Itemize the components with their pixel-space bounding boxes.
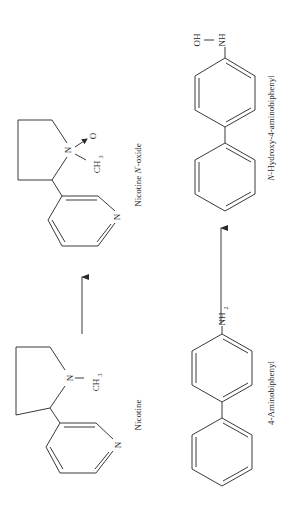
svg-text:Nicotine N′-oxide: Nicotine N′-oxide (133, 143, 143, 207)
svg-text:N-Hydroxy-4-aminobiphenyl: N-Hydroxy-4-aminobiphenyl (266, 75, 276, 182)
svg-text:CH: CH (92, 160, 102, 173)
methyl-group-label: CH 3 (92, 156, 104, 174)
svg-text:CH: CH (91, 378, 101, 391)
svg-text:2: 2 (223, 307, 229, 310)
nicotine-n-oxide-name: Nicotine N′-oxide (133, 143, 143, 207)
4-aminobiphenyl-name: 4-Aminobiphenyl (266, 361, 276, 425)
amine-label: NH (217, 33, 227, 46)
nicotine-n-oxide-structure: N O CH 3 N (18, 120, 122, 246)
svg-text:3: 3 (98, 156, 104, 159)
nicotine-name: Nicotine (133, 400, 143, 431)
amine-nitrogen-label: N (65, 374, 75, 381)
4-aminobiphenyl-structure: NH 2 (192, 307, 252, 487)
pyridine-nitrogen-label: N (113, 441, 123, 448)
amine-nitrogen-label: N (63, 146, 73, 153)
svg-text:3: 3 (97, 374, 103, 377)
pyridine-nitrogen-label: N (112, 213, 122, 220)
reaction-scheme: N O CH 3 N Nicotine N′-oxide N CH 3 N Ni… (0, 0, 286, 526)
hydroxyl-label: OH (192, 33, 202, 46)
n-hydroxy-4-aminobiphenyl-structure: OH NH (192, 33, 255, 211)
svg-text:NH: NH (217, 312, 227, 325)
methyl-group-label: CH 3 (91, 374, 103, 392)
nicotine-structure: N CH 3 N (16, 347, 123, 473)
oxide-oxygen-label: O (88, 132, 98, 139)
amine-label: NH 2 (217, 307, 229, 326)
n-hydroxy-4-aminobiphenyl-name: N-Hydroxy-4-aminobiphenyl (266, 75, 276, 182)
